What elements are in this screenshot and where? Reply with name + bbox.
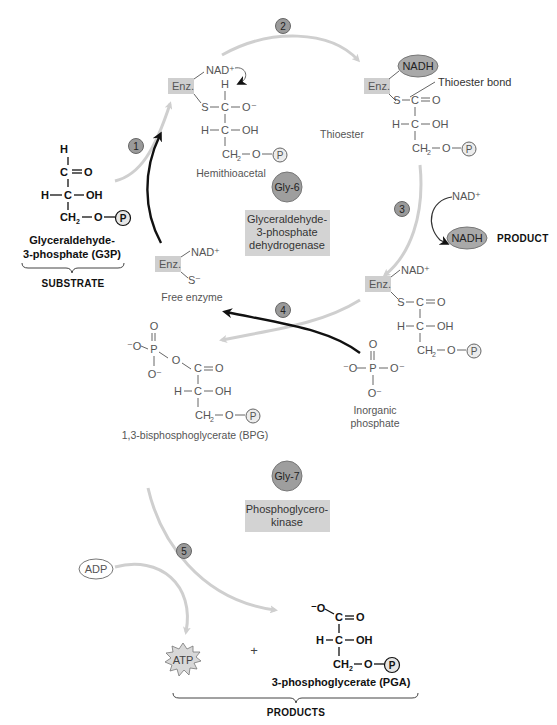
svg-text:P: P <box>466 144 473 155</box>
svg-text:H: H <box>221 78 229 90</box>
svg-text:Gly-7: Gly-7 <box>274 470 299 482</box>
svg-text:CH: CH <box>60 211 76 223</box>
svg-text:P: P <box>369 362 376 374</box>
svg-text:H: H <box>174 385 182 397</box>
svg-text:O: O <box>364 658 373 670</box>
svg-text:O⁻: O⁻ <box>390 362 405 374</box>
svg-text:dehydrogenase: dehydrogenase <box>249 239 325 251</box>
svg-text:2: 2 <box>427 149 431 156</box>
glycolysis-steps-6-7-diagram: 1 2 3 4 5 H C O H C OH CH 2 O P Gly <box>0 0 557 725</box>
svg-text:OH: OH <box>356 634 373 646</box>
svg-text:S: S <box>393 94 400 106</box>
svg-text:2: 2 <box>76 218 80 225</box>
step5-adp-to-atp-arrow <box>115 564 187 632</box>
svg-text:S⁻: S⁻ <box>188 274 201 286</box>
svg-text:O: O <box>369 338 378 350</box>
products-brace <box>173 693 418 703</box>
svg-text:O: O <box>215 362 224 374</box>
svg-text:O⁻: O⁻ <box>368 387 383 399</box>
svg-text:1: 1 <box>133 141 139 152</box>
svg-text:5: 5 <box>181 546 187 557</box>
nadh-product: NADH <box>447 227 487 249</box>
svg-text:O⁻: O⁻ <box>148 368 163 380</box>
substrate-brace <box>22 263 124 273</box>
svg-text:H: H <box>60 143 68 155</box>
svg-text:Phosphoglycero-: Phosphoglycero- <box>246 503 329 515</box>
svg-text:ATP: ATP <box>173 654 194 666</box>
svg-text:⁻O: ⁻O <box>311 602 326 614</box>
svg-text:CH: CH <box>417 344 433 356</box>
svg-text:2: 2 <box>237 155 241 162</box>
gly6-enzyme-badge: Gly-6 <box>272 172 302 202</box>
product-label: PRODUCT <box>497 233 549 244</box>
products-label: PRODUCTS <box>267 707 326 718</box>
step4-gray-arrow <box>222 300 360 340</box>
svg-text:ADP: ADP <box>85 563 108 575</box>
svg-text:CH: CH <box>222 148 238 160</box>
svg-text:C: C <box>221 124 229 136</box>
svg-text:C: C <box>416 320 424 332</box>
svg-text:4: 4 <box>280 305 286 316</box>
adp-molecule: ADP <box>79 559 113 579</box>
svg-text:Enz.: Enz. <box>368 80 390 92</box>
svg-text:C: C <box>194 385 202 397</box>
svg-text:O: O <box>442 142 451 154</box>
svg-text:2: 2 <box>280 21 286 32</box>
step3-nad-in: NAD⁺ <box>452 190 481 202</box>
svg-text:P: P <box>471 346 478 357</box>
svg-text:NADH: NADH <box>451 232 482 244</box>
thioester-structure: Enz. NADH Thioester bond S C O H C OH CH… <box>364 55 511 156</box>
svg-text:⁻O: ⁻O <box>343 362 358 374</box>
inorganic-phosphate-label-line1: Inorganic <box>353 404 396 416</box>
svg-text:OH: OH <box>215 385 232 397</box>
step-4-badge: 4 <box>276 303 291 318</box>
svg-text:3-phosphate: 3-phosphate <box>256 226 317 238</box>
svg-text:OH: OH <box>437 320 454 332</box>
step2-arrow <box>222 36 358 60</box>
svg-text:C: C <box>60 166 68 178</box>
svg-text:O: O <box>252 148 261 160</box>
hemithioacetal-label: Hemithioacetal <box>196 167 265 179</box>
svg-text:P: P <box>120 213 127 224</box>
svg-text:O: O <box>432 94 441 106</box>
svg-text:H: H <box>392 118 400 130</box>
g3p-name-line1: Glyceraldehyde- <box>29 234 115 246</box>
svg-text:Glyceraldehyde-: Glyceraldehyde- <box>247 213 327 225</box>
svg-text:NADH: NADH <box>402 60 433 72</box>
svg-text:Gly-6: Gly-6 <box>274 181 299 193</box>
svg-text:C: C <box>221 101 229 113</box>
svg-text:P: P <box>277 150 284 161</box>
svg-text:2: 2 <box>210 416 214 423</box>
svg-text:P: P <box>389 660 396 671</box>
svg-text:O: O <box>356 611 365 623</box>
g3p-structure: H C O H C OH CH 2 O P <box>41 143 130 226</box>
svg-text:CH: CH <box>195 409 211 421</box>
svg-text:3: 3 <box>399 204 405 215</box>
svg-text:2: 2 <box>432 351 436 358</box>
svg-text:O: O <box>150 320 159 332</box>
svg-text:C: C <box>64 189 72 201</box>
svg-text:Thioester bond: Thioester bond <box>438 76 511 88</box>
svg-text:O⁻: O⁻ <box>242 101 257 113</box>
free-enzyme-structure: Enz. NAD⁺ S⁻ <box>155 246 220 286</box>
svg-text:Enz.: Enz. <box>159 258 181 270</box>
svg-text:NAD⁺: NAD⁺ <box>401 264 430 276</box>
svg-text:NAD⁺: NAD⁺ <box>191 246 220 258</box>
step-2-badge: 2 <box>276 19 291 34</box>
step-1-badge: 1 <box>129 139 144 154</box>
svg-text:Enz.: Enz. <box>369 278 391 290</box>
free-enzyme-label: Free enzyme <box>161 291 222 303</box>
svg-text:O: O <box>225 409 234 421</box>
svg-text:⁻O: ⁻O <box>127 340 142 352</box>
hydride-transfer-arrow <box>235 68 246 83</box>
svg-text:OH: OH <box>242 124 259 136</box>
svg-text:kinase: kinase <box>271 516 303 528</box>
svg-text:Enz.: Enz. <box>172 80 194 92</box>
thioester-nad-structure: Enz. NAD⁺ S C O H C OH CH 2 O P <box>365 264 481 358</box>
atp-starburst: ATP <box>165 643 201 676</box>
svg-text:S: S <box>201 101 208 113</box>
step4-black-arrow <box>226 312 360 353</box>
gly7-enzyme-name-box: Phosphoglycero- kinase <box>245 500 330 532</box>
svg-text:NAD⁺: NAD⁺ <box>206 64 235 76</box>
svg-text:H: H <box>316 634 324 646</box>
